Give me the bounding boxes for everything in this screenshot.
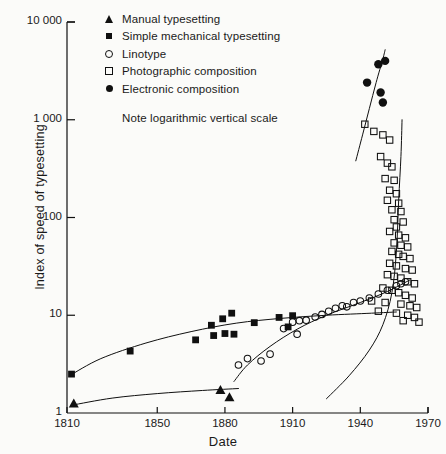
- marker-open-square: [389, 207, 395, 213]
- marker-open-circle: [235, 362, 242, 369]
- marker-open-circle: [294, 331, 301, 338]
- marker-open-square: [382, 299, 388, 305]
- marker-filled-square: [228, 310, 235, 317]
- marker-open-square: [409, 295, 415, 301]
- marker-open-circle: [258, 358, 265, 365]
- marker-open-square: [391, 177, 397, 183]
- marker-filled-square: [210, 332, 217, 339]
- x-axis-title: Date: [0, 434, 446, 449]
- marker-filled-square: [127, 348, 134, 355]
- marker-filled-square: [231, 331, 238, 338]
- figure-root: Manual typesetting Simple mechanical typ…: [0, 0, 446, 454]
- marker-filled-circle: [381, 57, 389, 65]
- marker-filled-square: [251, 319, 258, 326]
- trend-curve-1: [69, 312, 396, 376]
- marker-open-circle: [244, 355, 251, 362]
- marker-open-circle: [312, 314, 319, 321]
- marker-open-square: [402, 235, 408, 241]
- marker-open-square: [395, 290, 401, 296]
- marker-open-square: [404, 244, 410, 250]
- marker-filled-triangle: [69, 399, 79, 408]
- trend-curves: [69, 50, 410, 406]
- marker-open-square: [411, 281, 417, 287]
- marker-open-circle: [332, 305, 339, 312]
- marker-open-circle: [357, 298, 364, 305]
- marker-open-square: [414, 304, 420, 310]
- trend-curve-0: [72, 389, 239, 406]
- marker-open-square: [400, 253, 406, 259]
- marker-open-square: [384, 197, 390, 203]
- marker-open-square: [398, 301, 404, 307]
- marker-open-circle: [289, 319, 296, 326]
- marker-open-square: [386, 260, 392, 266]
- marker-open-square: [377, 153, 383, 159]
- marker-open-square: [400, 219, 406, 225]
- y-tick-label: 10 000: [27, 14, 62, 26]
- marker-filled-square: [219, 315, 226, 322]
- marker-open-circle: [267, 351, 274, 358]
- x-tick-label: 1850: [144, 417, 170, 429]
- marker-open-circle: [303, 317, 310, 324]
- marker-filled-square: [208, 322, 215, 329]
- trend-curve-2: [234, 280, 410, 382]
- marker-open-square: [393, 224, 399, 230]
- marker-open-square: [386, 228, 392, 234]
- marker-open-square: [391, 216, 397, 222]
- marker-filled-square: [222, 330, 229, 337]
- marker-open-square: [411, 314, 417, 320]
- marker-open-square: [393, 263, 399, 269]
- marker-filled-circle: [363, 78, 371, 86]
- x-tick-label: 1940: [348, 417, 374, 429]
- marker-open-circle: [296, 317, 303, 324]
- plot-canvas: [0, 0, 446, 454]
- y-tick-label: 1: [56, 405, 62, 417]
- axes: [67, 22, 428, 413]
- x-tick-label: 1810: [54, 417, 80, 429]
- marker-open-square: [386, 187, 392, 193]
- marker-filled-square: [276, 314, 283, 321]
- marker-open-square: [407, 303, 413, 309]
- marker-filled-circle: [379, 98, 387, 106]
- marker-open-square: [393, 310, 399, 316]
- marker-open-square: [395, 232, 401, 238]
- marker-filled-square: [192, 336, 199, 343]
- marker-filled-square: [289, 312, 296, 319]
- marker-filled-square: [68, 371, 75, 378]
- marker-open-square: [382, 175, 388, 181]
- marker-open-square: [384, 271, 390, 277]
- marker-open-square: [407, 255, 413, 261]
- marker-filled-triangle: [224, 392, 234, 401]
- y-tick-label: 10: [49, 307, 62, 319]
- marker-open-square: [402, 265, 408, 271]
- marker-open-square: [386, 137, 392, 143]
- marker-open-square: [380, 132, 386, 138]
- x-tick-label: 1970: [415, 417, 441, 429]
- marker-open-square: [416, 319, 422, 325]
- x-tick-label: 1880: [212, 417, 238, 429]
- marker-open-square: [389, 248, 395, 254]
- marker-open-square: [409, 267, 415, 273]
- marker-open-circle: [339, 302, 346, 309]
- marker-open-square: [371, 128, 377, 134]
- marker-open-square: [398, 242, 404, 248]
- y-axis-tick-labels: 1101001 00010 000: [0, 0, 62, 454]
- marker-filled-circle: [376, 88, 384, 96]
- x-tick-label: 1910: [280, 417, 306, 429]
- marker-open-circle: [325, 308, 332, 315]
- marker-open-square: [402, 292, 408, 298]
- y-axis-title: Index of speed of typesetting: [33, 97, 47, 317]
